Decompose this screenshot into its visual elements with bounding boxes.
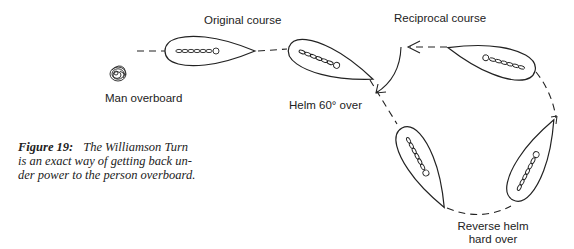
caption-line-1: Figure 19:The Williamson Turn	[18, 140, 198, 154]
boat-lower-left	[389, 121, 457, 214]
williamson-turn-diagram	[0, 0, 574, 249]
label-reverse-helm-line1: Reverse helm	[448, 220, 538, 233]
label-reverse-helm-line2: hard over	[448, 233, 538, 246]
boat-helm-60-over	[284, 33, 379, 93]
boat-reciprocal-course	[444, 34, 539, 86]
boat-lower-right	[500, 113, 567, 206]
figure-caption: Figure 19:The Williamson Turn is an exac…	[18, 140, 198, 182]
label-original-course: Original course	[204, 14, 281, 27]
caption-line-3: der power to the person overboard.	[18, 168, 198, 182]
boat-original-course	[165, 36, 255, 65]
turn-arrow-icon	[376, 47, 401, 93]
label-man-overboard: Man overboard	[105, 92, 182, 105]
label-helm-60-over: Helm 60° over	[289, 99, 362, 112]
caption-text-1: The Williamson Turn	[83, 140, 188, 154]
label-reverse-helm: Reverse helm hard over	[448, 220, 538, 246]
figure-label: Figure 19:	[18, 140, 73, 154]
label-reciprocal-course: Reciprocal course	[394, 12, 486, 25]
man-overboard-icon	[110, 66, 126, 81]
caption-line-2: is an exact way of getting back un-	[18, 154, 198, 168]
